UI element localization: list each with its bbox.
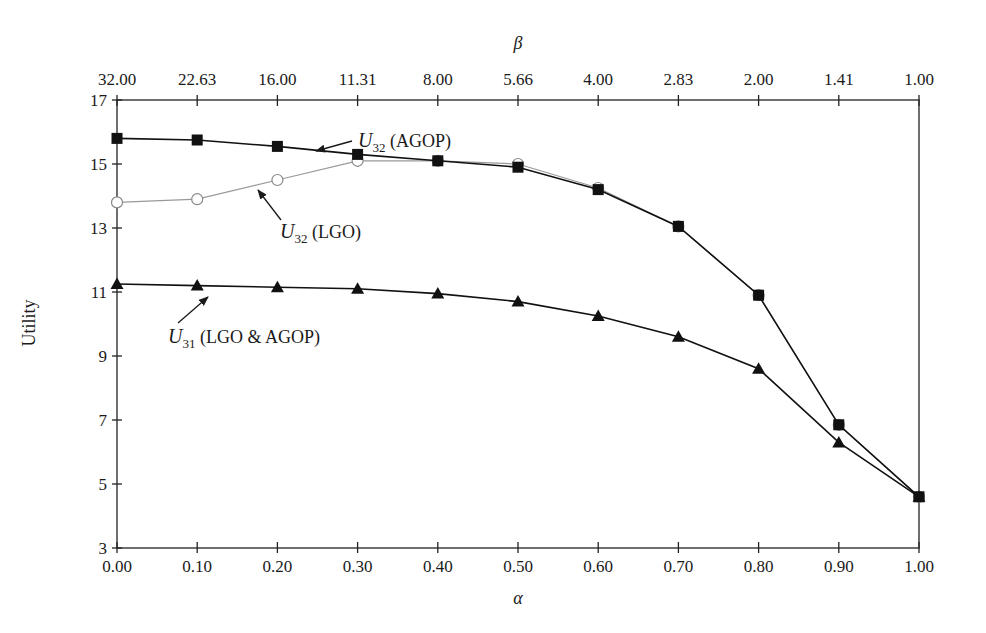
y-tick-label: 7 [99, 411, 108, 430]
x2-tick-label: 16.00 [258, 70, 296, 89]
y-tick-label: 13 [90, 219, 107, 238]
square-marker [192, 135, 203, 146]
x-tick-label: 0.50 [503, 557, 533, 576]
x2-tick-label: 1.41 [824, 70, 854, 89]
svg-text:U31 (LGO & AGOP): U31 (LGO & AGOP) [168, 325, 320, 351]
x2-tick-label: 22.63 [178, 70, 216, 89]
arrow-icon [258, 190, 281, 220]
x-tick-label: 0.30 [343, 557, 373, 576]
y-axis-title: Utility [19, 299, 39, 346]
arrow-icon [178, 297, 208, 323]
x-tick-label: 0.90 [824, 557, 854, 576]
x2-tick-label: 8.00 [423, 70, 453, 89]
triangle-marker [111, 278, 124, 290]
y-tick-label: 5 [99, 475, 108, 494]
series-u31-lgo-agop [111, 278, 926, 502]
circle-marker [192, 194, 203, 205]
x2-tick-label: 32.00 [98, 70, 136, 89]
annotation-label: U32 (AGOP) [316, 129, 451, 155]
x-tick-label: 0.70 [664, 557, 694, 576]
y-tick-label: 11 [91, 283, 107, 302]
x-tick-label: 0.60 [583, 557, 613, 576]
x-axis-title: α [513, 588, 523, 608]
y-tick-label: 15 [90, 155, 107, 174]
x2-axis-title: β [513, 33, 523, 53]
square-marker [753, 290, 764, 301]
annotations-layer: U32 (AGOP)U32 (LGO)U31 (LGO & AGOP) [168, 129, 451, 351]
x-tick-label: 0.40 [423, 557, 453, 576]
circle-marker [112, 197, 123, 208]
x2-tick-label: 2.83 [664, 70, 694, 89]
x2-tick-label: 4.00 [583, 70, 613, 89]
square-marker [593, 184, 604, 195]
x-tick-label: 0.00 [102, 557, 132, 576]
square-marker [513, 162, 524, 173]
svg-text:U32 (LGO): U32 (LGO) [280, 220, 361, 246]
x-tick-label: 0.80 [744, 557, 774, 576]
square-marker [914, 491, 925, 502]
annotation-label: U32 (LGO) [258, 190, 361, 246]
annotation-label: U31 (LGO & AGOP) [168, 297, 320, 351]
arrow-icon [316, 141, 352, 151]
x-tick-label: 0.10 [182, 557, 212, 576]
x2-tick-label: 5.66 [503, 70, 533, 89]
square-marker [112, 133, 123, 144]
circle-marker [272, 175, 283, 186]
triangle-marker [752, 362, 765, 374]
x2-tick-label: 1.00 [904, 70, 934, 89]
square-marker [272, 141, 283, 152]
utility-line-chart: 357911131517 0.000.100.200.300.400.500.6… [0, 0, 986, 633]
x-axis-alpha: 0.000.100.200.300.400.500.600.700.800.90… [102, 542, 934, 576]
square-marker [673, 221, 684, 232]
y-tick-label: 17 [90, 91, 108, 110]
x2-tick-label: 11.31 [339, 70, 377, 89]
x-tick-label: 1.00 [904, 557, 934, 576]
square-marker [432, 155, 443, 166]
x-tick-label: 0.20 [263, 557, 293, 576]
svg-text:U32 (AGOP): U32 (AGOP) [358, 129, 451, 155]
x2-tick-label: 2.00 [744, 70, 774, 89]
y-tick-label: 9 [99, 347, 108, 366]
series-layer [111, 133, 926, 502]
series-u32-agop [112, 133, 925, 502]
y-tick-label: 3 [99, 539, 108, 558]
square-marker [833, 419, 844, 430]
